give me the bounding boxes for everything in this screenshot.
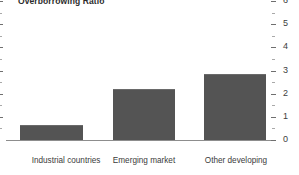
bar-emerging-market-economies xyxy=(113,89,175,140)
y-tick-minor-left xyxy=(0,128,2,129)
y-tick-major xyxy=(271,47,276,48)
y-tick-major xyxy=(271,71,276,72)
y-tick-minor-left xyxy=(0,59,2,60)
y-tick-label: 4 xyxy=(283,42,295,51)
y-tick-minor-left xyxy=(0,105,2,106)
bar-other-developing-countries xyxy=(204,74,266,140)
y-tick-label: 1 xyxy=(283,112,295,121)
y-tick-label: 5 xyxy=(283,19,295,28)
category-label-line: Industrial countries xyxy=(32,156,101,165)
y-tick-minor xyxy=(272,36,275,37)
category-label-line: Other developing xyxy=(205,156,267,165)
plot-area xyxy=(0,0,272,141)
y-tick-label: 6 xyxy=(283,0,295,5)
category-label-other-developing-countries: Other developing countries xyxy=(190,145,282,175)
zero-baseline xyxy=(6,140,272,141)
y-tick-label: 0 xyxy=(283,135,295,144)
bar-industrial-countries xyxy=(20,125,83,140)
y-tick-major-left xyxy=(0,47,3,48)
y-tick-minor-left xyxy=(0,36,2,37)
y-tick-major xyxy=(271,1,276,2)
category-label-line: Emerging market xyxy=(113,156,175,165)
y-tick-label: 3 xyxy=(283,66,295,75)
category-label-emerging-market-economies: Emerging market economies xyxy=(98,145,190,175)
y-tick-major-left xyxy=(0,24,3,25)
y-tick-major-left xyxy=(0,71,3,72)
y-tick-minor xyxy=(272,13,275,14)
y-tick-major xyxy=(271,140,276,141)
y-tick-minor xyxy=(272,82,275,83)
y-tick-major xyxy=(271,24,276,25)
y-tick-major xyxy=(271,94,276,95)
y-tick-major xyxy=(271,117,276,118)
y-tick-major-left xyxy=(0,1,3,2)
y-tick-major-left xyxy=(0,117,3,118)
y-tick-major-left xyxy=(0,94,3,95)
y-tick-minor-left xyxy=(0,82,2,83)
overborrowing-ratio-chart: Overborrowing Ratio 0123456 Industrial c… xyxy=(0,0,299,175)
y-tick-minor-left xyxy=(0,13,2,14)
y-tick-minor xyxy=(272,59,275,60)
y-tick-minor xyxy=(272,105,275,106)
y-tick-label: 2 xyxy=(283,89,295,98)
y-tick-minor xyxy=(272,128,275,129)
